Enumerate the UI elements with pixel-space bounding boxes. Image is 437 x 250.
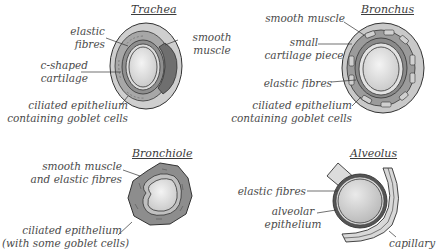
label-line: ciliated epithelium: [226, 99, 352, 112]
label-line: ciliated epithelium: [2, 224, 122, 237]
bronchiole-cross-section: [128, 163, 192, 225]
bronchus-label-elastic-fibres: elastic fibres: [250, 77, 332, 90]
label-line: small: [262, 36, 346, 49]
label-line: epithelium: [264, 218, 322, 231]
trachea-title: Trachea: [131, 3, 176, 16]
alveolus-cross-section: [327, 163, 399, 242]
label-line: ciliated epithelium: [2, 99, 128, 112]
label-line: (with some goblet cells): [2, 237, 122, 250]
label-line: smooth muscle: [20, 160, 122, 173]
alveolus-label-alveolar-epithelium: alveolar epithelium: [264, 205, 322, 230]
alveolus-title: Alveolus: [350, 147, 397, 160]
label-line: muscle: [188, 44, 236, 57]
trachea-cross-section: [110, 23, 182, 109]
bronchiole-label-smooth-muscle-elastic: smooth muscle and elastic fibres: [20, 160, 122, 185]
label-line: cartilage piece: [262, 49, 346, 62]
label-line: elastic: [58, 25, 105, 38]
label-line: smooth: [188, 31, 236, 44]
trachea-label-smooth-muscle: smooth muscle: [188, 31, 236, 56]
bronchus-label-small-cartilage-piece: small cartilage piece: [262, 36, 346, 61]
alveolus-label-elastic-fibres: elastic fibres: [232, 185, 306, 198]
label-line: c-shaped: [20, 59, 88, 72]
trachea-label-c-shaped-cartilage: c-shaped cartilage: [20, 59, 88, 84]
trachea-label-elastic-fibres: elastic fibres: [58, 25, 105, 50]
label-line: alveolar: [264, 205, 322, 218]
trachea-label-ciliated-epithelium: ciliated epithelium containing goblet ce…: [2, 99, 128, 124]
alveolus-label-capillary: capillary: [389, 237, 435, 250]
label-line: and elastic fibres: [20, 173, 122, 186]
bronchiole-label-ciliated-epithelium: ciliated epithelium (with some goblet ce…: [2, 224, 122, 249]
label-line: fibres: [58, 38, 105, 51]
bronchus-label-ciliated-epithelium: ciliated epithelium containing goblet ce…: [226, 99, 352, 124]
label-line: containing goblet cells: [2, 112, 128, 125]
label-line: containing goblet cells: [226, 112, 352, 125]
label-line: cartilage: [20, 72, 88, 85]
bronchus-cross-section: [342, 23, 424, 113]
bronchiole-title: Bronchiole: [132, 147, 192, 160]
bronchus-label-smooth-muscle: smooth muscle: [252, 12, 345, 25]
bronchus-title: Bronchus: [361, 3, 414, 16]
